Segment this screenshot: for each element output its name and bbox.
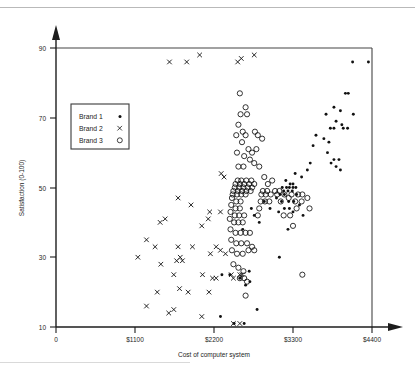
data-point-dot [248, 270, 251, 273]
data-point-x [153, 244, 158, 249]
data-point-x [166, 311, 171, 316]
data-point-circle [257, 206, 262, 211]
data-point-circle [233, 230, 238, 235]
data-point-circle [305, 195, 310, 200]
y-tick-labels: 90 70 50 30 10 [39, 45, 47, 331]
data-point-dot [300, 176, 303, 179]
data-point-circle [260, 136, 265, 141]
data-point-circle [241, 164, 246, 169]
data-point-dot [238, 277, 241, 280]
legend-label-brand-2: Brand 2 [79, 125, 103, 132]
data-point-dot [243, 322, 246, 325]
data-point-circle [234, 241, 239, 246]
data-point-dot [281, 186, 284, 189]
data-point-dot [332, 158, 335, 161]
data-point-x [163, 217, 168, 222]
series-brand-3 [227, 91, 312, 298]
data-point-x [223, 251, 228, 256]
data-point-x [199, 224, 204, 229]
data-point-x [206, 217, 211, 222]
data-point-dot [292, 210, 295, 213]
data-point-dot [344, 92, 347, 95]
data-point-x [159, 262, 164, 267]
legend-dot-icon [119, 115, 122, 118]
data-point-dot [283, 193, 286, 196]
x-axis-title: Cost of computer system [178, 351, 250, 359]
data-point-circle [231, 262, 236, 267]
data-point-dot [288, 207, 291, 210]
data-point-circle [254, 147, 259, 152]
data-point-circle [242, 213, 247, 218]
data-point-circle [307, 206, 312, 211]
data-point-dot [219, 315, 222, 318]
data-point-dot [325, 113, 328, 116]
y-tick-label: 10 [39, 324, 47, 331]
data-point-x [177, 286, 182, 291]
data-point-dot [278, 256, 281, 259]
data-point-dot [351, 61, 354, 64]
data-point-circle [237, 91, 242, 96]
data-point-circle [238, 112, 243, 117]
data-point-circle [240, 129, 245, 134]
data-point-x [144, 238, 149, 243]
data-point-circle [289, 192, 294, 197]
data-point-x [186, 290, 191, 295]
data-point-dot [315, 134, 318, 137]
data-point-x [189, 203, 194, 208]
y-axis-title: Satisfaction (0-100) [18, 160, 26, 216]
data-point-circle [234, 133, 239, 138]
data-point-dot [294, 172, 297, 175]
data-point-circle [234, 251, 239, 256]
data-point-dot [258, 221, 261, 224]
data-point-dot [338, 158, 341, 161]
y-tick-label: 30 [39, 254, 47, 261]
data-point-dot [302, 214, 305, 217]
data-point-circle [244, 241, 249, 246]
data-point-dot [277, 210, 280, 213]
data-point-x [176, 244, 181, 249]
data-point-dot [330, 162, 333, 165]
data-point-x [214, 276, 219, 281]
data-point-circle [236, 164, 241, 169]
legend-label-brand-1: Brand 1 [79, 113, 103, 120]
x-tick-labels: 0 $1100 $2200 $3300 $4400 [54, 336, 381, 343]
data-point-dot [283, 207, 286, 210]
legend-label-brand-3: Brand 3 [79, 137, 103, 144]
data-point-circle [243, 105, 248, 110]
data-point-circle [262, 174, 267, 179]
data-point-x [218, 248, 223, 253]
data-point-dot [306, 169, 309, 172]
data-point-dot [339, 169, 342, 172]
data-point-circle [257, 164, 262, 169]
plot-frame [56, 48, 372, 327]
data-point-x [197, 53, 202, 58]
x-tick-label: $2200 [205, 336, 223, 343]
data-point-x [155, 290, 160, 295]
data-point-dot [280, 200, 283, 203]
data-point-circle [242, 154, 247, 159]
data-point-dot [256, 308, 259, 311]
data-point-x [167, 60, 172, 65]
data-point-x [238, 321, 243, 326]
data-point-dot [287, 190, 290, 193]
data-point-circle [229, 248, 234, 253]
legend: Brand 1 Brand 2 Brand 3 [71, 104, 129, 149]
y-axis-ticks [50, 48, 56, 327]
data-point-dot [322, 137, 325, 140]
data-point-dot [332, 127, 335, 130]
data-point-dot [269, 207, 272, 210]
data-point-dot [340, 123, 343, 126]
data-point-x [222, 175, 227, 180]
data-point-dot [335, 120, 338, 123]
data-point-circle [288, 213, 293, 218]
data-point-circle [240, 251, 245, 256]
data-point-circle [300, 272, 305, 277]
data-point-dot [347, 92, 350, 95]
data-point-dot [294, 186, 297, 189]
data-point-x [218, 210, 223, 215]
data-point-x [171, 272, 176, 277]
data-point-dot [339, 109, 342, 112]
data-point-x [208, 251, 213, 256]
data-markers-group [136, 53, 370, 326]
data-point-x [207, 210, 212, 215]
